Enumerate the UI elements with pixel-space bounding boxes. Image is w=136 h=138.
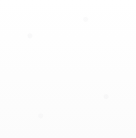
empty-cell-bottom-right <box>68 76 125 129</box>
rounded-square-icon-top-left <box>5 11 58 64</box>
shape-layer <box>0 0 136 138</box>
rounded-square-icon-top-right <box>68 11 125 64</box>
rounded-square-icon-bottom-left <box>5 76 58 129</box>
icon-canvas <box>0 0 136 138</box>
